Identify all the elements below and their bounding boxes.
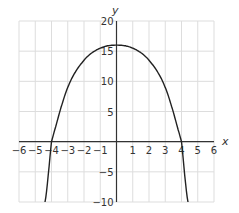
x-axis-label: x (221, 135, 229, 148)
x-tick-label: 2 (146, 145, 152, 156)
x-tick-label: −2 (77, 145, 92, 156)
y-tick-label: 20 (101, 16, 114, 27)
y-tick-label: 5 (107, 107, 113, 118)
x-tick-label: −6 (12, 145, 27, 156)
x-tick-label: −3 (60, 145, 75, 156)
plot-area: −6−5−4−3−2−1123456−10−55101520 x y (0, 0, 239, 213)
y-tick-label: 10 (101, 76, 114, 87)
x-tick-label: 5 (195, 145, 201, 156)
x-tick-label: −1 (93, 145, 108, 156)
x-tick-label: 6 (211, 145, 217, 156)
x-tick-label: 3 (162, 145, 168, 156)
y-tick-label: −10 (92, 197, 113, 208)
y-axis-label: y (111, 4, 119, 17)
y-tick-label: −5 (99, 167, 114, 178)
chart: −6−5−4−3−2−1123456−10−55101520 x y (0, 0, 239, 213)
x-tick-label: −5 (28, 145, 43, 156)
x-tick-label: 1 (130, 145, 136, 156)
